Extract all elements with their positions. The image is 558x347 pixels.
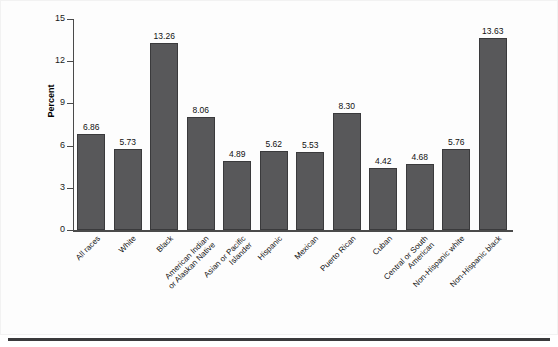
y-axis-tick-label: 6 (21, 140, 65, 150)
bar-value-label: 6.86 (73, 122, 110, 132)
bar (479, 38, 507, 230)
x-axis-category-label: Puerto Rican (318, 234, 357, 273)
bar-value-label: 4.89 (219, 149, 256, 159)
bar (406, 164, 434, 230)
bar (114, 149, 142, 230)
bottom-divider-rule (8, 338, 550, 341)
bar (442, 149, 470, 230)
bar-value-label: 8.30 (329, 101, 366, 111)
y-axis-tick (67, 230, 73, 231)
y-axis-tick-label: 9 (21, 97, 65, 107)
bar (187, 117, 215, 230)
x-axis-line (73, 230, 513, 232)
x-axis-category-label: Hispanic (256, 234, 284, 262)
bar-value-label: 13.26 (146, 31, 183, 41)
figure-panel: Percent 03691215 6.865.7313.268.064.895.… (0, 0, 558, 335)
bar-value-label: 5.76 (438, 137, 475, 147)
x-axis-category-label: Mexican (293, 234, 320, 261)
bar-value-label: 4.68 (402, 152, 439, 162)
bar (223, 161, 251, 230)
x-axis-category-label: Cuban (371, 234, 394, 257)
bar-value-label: 13.63 (475, 26, 512, 36)
bar (260, 151, 288, 230)
bar-value-label: 5.73 (110, 137, 147, 147)
y-axis-tick-label: 12 (21, 55, 65, 65)
bar-value-label: 5.53 (292, 140, 329, 150)
y-axis-tick-label: 3 (21, 182, 65, 192)
x-axis-category-label: Black (154, 234, 174, 254)
y-axis-tick-label: 15 (21, 13, 65, 23)
bar (77, 134, 105, 230)
bar (333, 113, 361, 230)
x-axis-category-label: All races (74, 234, 102, 262)
bar (369, 168, 397, 230)
bar-value-label: 4.42 (365, 156, 402, 166)
bar (150, 43, 178, 230)
plot-area: 6.865.7313.268.064.895.625.538.304.424.6… (73, 19, 511, 230)
x-axis-category-label: White (117, 234, 138, 255)
y-axis-tick-label: 0 (21, 224, 65, 234)
bar-value-label: 8.06 (183, 105, 220, 115)
bar (296, 152, 324, 230)
bar-value-label: 5.62 (256, 139, 293, 149)
